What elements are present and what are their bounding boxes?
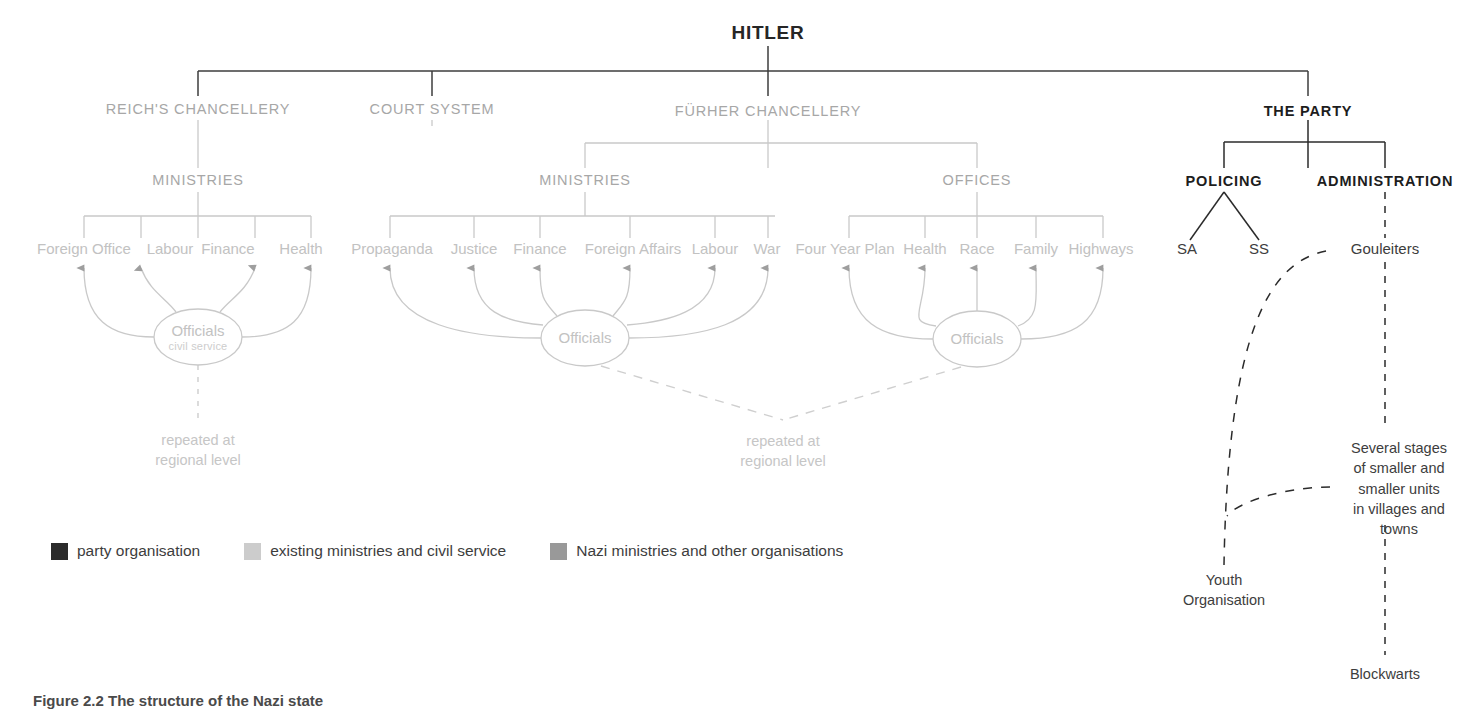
leaf-foreign-office[interactable]: Foreign Office xyxy=(37,240,131,257)
leaf-labour-reich[interactable]: Labour xyxy=(147,240,194,257)
oval-officials-reich-label: Officials xyxy=(169,323,228,340)
leaf-foreign-affairs[interactable]: Foreign Affairs xyxy=(585,240,681,257)
leaf-health-offices[interactable]: Health xyxy=(903,240,946,257)
leaf-highways[interactable]: Highways xyxy=(1068,240,1133,257)
youth-line-2: Organisation xyxy=(1183,590,1265,610)
note-line-1: repeated at xyxy=(155,430,240,450)
node-several-stages: Several stages of smaller and smaller un… xyxy=(1351,438,1447,539)
stages-line-4: in villages and xyxy=(1351,499,1447,519)
oval-officials-reich[interactable]: Officials civil service xyxy=(169,323,228,352)
leaf-propaganda[interactable]: Propaganda xyxy=(351,240,433,257)
note-line-2: regional level xyxy=(155,450,240,470)
legend-swatch-icon xyxy=(244,543,261,560)
stages-line-3: smaller units xyxy=(1351,479,1447,499)
note-line-2: regional level xyxy=(740,451,825,471)
node-fuhrer-chancellery[interactable]: FÜRHER CHANCELLERY xyxy=(675,103,862,120)
leaf-sa[interactable]: SA xyxy=(1177,240,1197,257)
figure-caption: Figure 2.2 The structure of the Nazi sta… xyxy=(33,692,323,709)
legend: party organisation existing ministries a… xyxy=(51,542,887,560)
note-repeated-regional-center: repeated at regional level xyxy=(740,431,825,471)
legend-label: existing ministries and civil service xyxy=(270,542,506,560)
stages-line-2: of smaller and xyxy=(1351,458,1447,478)
stages-line-5: towns xyxy=(1351,519,1447,539)
node-reich-ministries[interactable]: MINISTRIES xyxy=(152,172,243,189)
leaf-race[interactable]: Race xyxy=(959,240,994,257)
leaf-finance-reich[interactable]: Finance xyxy=(201,240,254,257)
legend-swatch-icon xyxy=(550,543,567,560)
leaf-four-year-plan[interactable]: Four Year Plan xyxy=(795,240,894,257)
oval-officials-offices[interactable]: Officials xyxy=(950,331,1003,348)
youth-line-1: Youth xyxy=(1183,570,1265,590)
leaf-family[interactable]: Family xyxy=(1014,240,1058,257)
legend-item-nazi-ministries: Nazi ministries and other organisations xyxy=(550,542,843,560)
node-the-party[interactable]: THE PARTY xyxy=(1264,103,1353,120)
note-line-1: repeated at xyxy=(740,431,825,451)
node-court-system[interactable]: COURT SYSTEM xyxy=(370,101,495,118)
stages-line-1: Several stages xyxy=(1351,438,1447,458)
leaf-ss[interactable]: SS xyxy=(1249,240,1269,257)
legend-item-existing-ministries: existing ministries and civil service xyxy=(244,542,506,560)
leaf-finance-fuhrer[interactable]: Finance xyxy=(513,240,566,257)
node-youth-organisation[interactable]: Youth Organisation xyxy=(1183,570,1265,611)
node-hitler[interactable]: HITLER xyxy=(732,22,805,44)
node-blockwarts[interactable]: Blockwarts xyxy=(1350,664,1420,684)
legend-label: party organisation xyxy=(77,542,200,560)
oval-officials-reich-sub: civil service xyxy=(169,340,228,352)
legend-item-party-organisation: party organisation xyxy=(51,542,200,560)
leaf-justice[interactable]: Justice xyxy=(451,240,498,257)
note-repeated-regional-left: repeated at regional level xyxy=(155,430,240,470)
legend-swatch-icon xyxy=(51,543,68,560)
node-fuhrer-ministries[interactable]: MINISTRIES xyxy=(539,172,630,189)
leaf-health-reich[interactable]: Health xyxy=(279,240,322,257)
leaf-labour-fuhrer[interactable]: Labour xyxy=(692,240,739,257)
node-policing[interactable]: POLICING xyxy=(1186,173,1263,190)
node-fuhrer-offices[interactable]: OFFICES xyxy=(943,172,1012,189)
legend-label: Nazi ministries and other organisations xyxy=(576,542,843,560)
node-gouleiters[interactable]: Gouleiters xyxy=(1351,240,1419,257)
oval-officials-ministries[interactable]: Officials xyxy=(558,330,611,347)
leaf-war[interactable]: War xyxy=(754,240,781,257)
node-administration[interactable]: ADMINISTRATION xyxy=(1317,173,1453,190)
node-reichs-chancellery[interactable]: REICH'S CHANCELLERY xyxy=(106,101,291,118)
